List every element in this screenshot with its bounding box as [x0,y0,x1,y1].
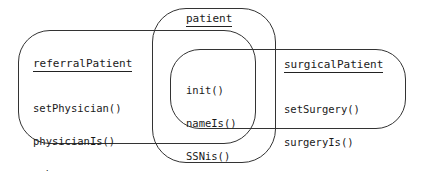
member-rphys: rphys [33,169,122,171]
member-physicianIs: physicianIs() [33,136,122,147]
member-surgeryIs: surgeryIs() [284,137,360,148]
member-SSNis: SSNis() [186,151,237,162]
member-nameIs: nameIs() [186,118,237,129]
referral-patient-title: referralPatient [33,58,132,72]
surgical-patient-members: setSurgery() surgeryIs() surgery [284,82,360,171]
patient-members: init() nameIs() SSNis() name ssn [186,63,237,171]
member-init: init() [186,85,237,96]
patient-title: patient [186,13,232,27]
referral-patient-members: setPhysician() physicianIs() rphys [33,81,122,171]
member-setPhysician: setPhysician() [33,103,122,114]
surgical-patient-title: surgicalPatient [284,59,383,73]
member-setSurgery: setSurgery() [284,104,360,115]
member-surgery: surgery [284,170,360,171]
